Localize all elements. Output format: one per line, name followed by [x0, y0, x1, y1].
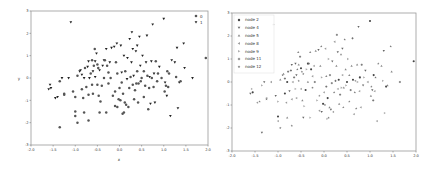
circle-marker-icon	[134, 89, 137, 92]
circle-marker-icon	[166, 70, 169, 73]
circle-marker-icon	[99, 100, 102, 103]
circle-marker-icon	[76, 121, 79, 124]
y-tick-label: -3	[25, 143, 29, 147]
circle-marker-icon	[205, 57, 208, 60]
circle-marker-icon	[146, 75, 149, 78]
circle-marker-icon	[175, 76, 178, 79]
right-y-axis-ticks: -3-2-10123	[226, 11, 232, 153]
x-tick-label: 0.0	[117, 148, 123, 152]
x-tick-label: 1.0	[161, 148, 167, 152]
circle-marker-icon	[136, 70, 139, 73]
circle-marker-icon	[96, 63, 99, 66]
circle-marker-icon	[76, 75, 79, 78]
x-tick-label: -0.5	[94, 148, 101, 152]
circle-marker-icon	[116, 72, 119, 75]
circle-marker-icon	[147, 108, 150, 111]
circle-marker-icon	[252, 91, 254, 93]
legend-label-node-4: node 4	[245, 25, 259, 30]
circle-marker-icon	[338, 79, 340, 81]
circle-marker-icon	[74, 110, 77, 113]
circle-marker-icon	[107, 71, 110, 74]
left-plot-frame	[31, 11, 208, 145]
circle-marker-icon	[151, 77, 154, 80]
circle-marker-icon	[59, 126, 62, 129]
circle-marker-icon	[168, 72, 171, 75]
circle-marker-icon	[286, 81, 288, 83]
circle-marker-icon	[144, 85, 147, 88]
circle-marker-icon	[107, 82, 110, 85]
circle-marker-icon	[132, 83, 135, 86]
circle-marker-icon	[125, 104, 128, 107]
circle-marker-icon	[82, 97, 85, 100]
y-tick-label: 0	[26, 76, 29, 80]
legend-label-node-8: node 8	[245, 41, 259, 46]
circle-marker-icon	[327, 97, 329, 99]
circle-marker-icon	[118, 87, 121, 90]
circle-marker-icon	[165, 85, 168, 88]
circle-marker-icon	[98, 111, 101, 114]
x-tick-label: -0.5	[297, 154, 304, 158]
left-y-axis-ticks: -3-2-10123	[25, 9, 31, 147]
circle-marker-icon	[157, 72, 160, 75]
circle-marker-icon	[373, 74, 375, 76]
circle-marker-icon	[112, 95, 115, 98]
y-tick-label: -2	[226, 126, 230, 130]
circle-marker-icon	[155, 60, 158, 63]
circle-marker-icon	[83, 111, 86, 114]
circle-marker-icon	[238, 19, 240, 21]
left-scatter-figure: -2.0-1.5-1.0-0.50.00.51.01.52.0 -3-2-101…	[0, 0, 218, 169]
circle-marker-icon	[74, 115, 77, 118]
circle-marker-icon	[120, 81, 123, 84]
circle-marker-icon	[160, 77, 163, 80]
x-tick-label: 0.5	[139, 148, 145, 152]
circle-marker-icon	[101, 85, 104, 88]
circle-marker-icon	[97, 67, 100, 70]
circle-marker-icon	[369, 20, 371, 22]
circle-marker-icon	[346, 81, 348, 83]
circle-marker-icon	[143, 96, 146, 99]
circle-marker-icon	[300, 67, 302, 69]
legend-circle-icon	[195, 15, 198, 18]
circle-marker-icon	[127, 106, 130, 109]
y-tick-label: 3	[227, 11, 229, 15]
x-tick-label: 1.5	[390, 154, 396, 158]
right-scatter-figure: -2.0-1.5-1.0-0.50.00.51.01.52.0 -3-2-101…	[218, 0, 437, 169]
circle-marker-icon	[124, 70, 127, 73]
circle-marker-icon	[128, 87, 131, 90]
right-x-axis-ticks: -2.0-1.5-1.0-0.50.00.51.01.52.0	[228, 151, 419, 158]
legend-label-node-2: node 2	[245, 17, 259, 22]
circle-marker-icon	[91, 83, 94, 86]
x-tick-label: 1.0	[367, 154, 373, 158]
circle-marker-icon	[106, 64, 109, 67]
circle-marker-icon	[124, 101, 127, 104]
legend-label-node-11: node 11	[245, 56, 262, 61]
y-tick-label: 1	[227, 57, 229, 61]
circle-marker-icon	[143, 70, 146, 73]
x-tick-label: -1.5	[50, 148, 57, 152]
circle-marker-icon	[163, 90, 166, 93]
circle-marker-icon	[152, 86, 155, 89]
x-tick-label: 0.5	[344, 154, 350, 158]
y-tick-label: 2	[26, 32, 28, 36]
x-tick-label: -1.0	[274, 154, 282, 158]
circle-marker-icon	[116, 106, 119, 109]
circle-marker-icon	[133, 98, 136, 101]
circle-marker-icon	[123, 111, 126, 114]
y-tick-label: -1	[226, 103, 230, 107]
circle-marker-icon	[93, 64, 96, 67]
circle-marker-icon	[87, 94, 90, 97]
circle-marker-icon	[114, 90, 117, 93]
y-tick-label: -2	[25, 121, 29, 125]
circle-marker-icon	[322, 103, 324, 105]
x-tick-label: 2.0	[205, 148, 211, 152]
circle-marker-icon	[137, 82, 140, 85]
circle-marker-icon	[93, 48, 96, 51]
x-tick-label: -2.0	[228, 154, 236, 158]
x-tick-label: 1.5	[183, 148, 189, 152]
circle-marker-icon	[139, 80, 142, 83]
x-tick-label: -1.0	[72, 148, 80, 152]
y-tick-label: 2	[227, 34, 229, 38]
y-tick-label: 0	[227, 80, 230, 84]
circle-marker-icon	[140, 77, 143, 80]
circle-marker-icon	[63, 94, 66, 97]
